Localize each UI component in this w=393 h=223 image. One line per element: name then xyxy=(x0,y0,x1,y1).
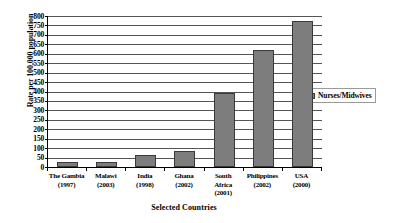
bar[interactable] xyxy=(174,151,195,167)
y-axis-tick-label: 700 xyxy=(18,31,44,38)
bar-slot xyxy=(87,16,126,167)
bar[interactable] xyxy=(253,50,274,167)
x-axis-tick-label-line: (2003) xyxy=(86,181,125,190)
x-axis-tick-label-line: USA xyxy=(282,172,321,181)
bar-series-nurses-midwives xyxy=(48,16,322,167)
x-axis-tick-marks xyxy=(47,167,321,171)
x-axis-tick-mark xyxy=(164,167,165,171)
bar-chart: Rate per 100,000 population 800750700650… xyxy=(0,0,393,223)
y-axis-tick-label: 0 xyxy=(18,164,44,171)
x-axis-tick-label: Philippines(2002) xyxy=(243,172,282,198)
x-axis-tick-label: Malawi(2003) xyxy=(86,172,125,198)
x-axis-tick-mark xyxy=(125,167,126,171)
y-axis-tick-label: 750 xyxy=(18,22,44,29)
x-axis-tick-label-line: South xyxy=(204,172,243,181)
x-axis-tick-label-line: (2001) xyxy=(204,189,243,198)
bar-slot xyxy=(205,16,244,167)
x-axis-tick-label: USA(2000) xyxy=(282,172,321,198)
x-axis-tick-mark xyxy=(282,167,283,171)
legend-label: Nurses/Midwives xyxy=(318,91,372,100)
x-axis-tick-label-line: Malawi xyxy=(86,172,125,181)
bar-slot xyxy=(126,16,165,167)
y-axis-tick-label: 350 xyxy=(18,97,44,104)
x-axis-tick-label: Ghana(2002) xyxy=(164,172,203,198)
x-axis-tick-label-line: The Gambia xyxy=(47,172,86,181)
bar[interactable] xyxy=(96,162,117,167)
x-axis-tick-mark xyxy=(204,167,205,171)
y-axis-tick-label: 50 xyxy=(18,154,44,161)
x-axis-tick-label-line: (2002) xyxy=(243,181,282,190)
x-axis-tick-label-line: Ghana xyxy=(164,172,203,181)
bar[interactable] xyxy=(57,162,78,167)
y-axis-tick-label: 600 xyxy=(18,50,44,57)
y-axis-tick-label: 100 xyxy=(18,145,44,152)
y-axis-tick-label: 150 xyxy=(18,135,44,142)
bar-slot xyxy=(165,16,204,167)
x-axis-tick-label-line: (2000) xyxy=(282,181,321,190)
bar-slot xyxy=(244,16,283,167)
x-axis-tick-label-line: Philippines xyxy=(243,172,282,181)
y-axis-tick-label: 650 xyxy=(18,41,44,48)
bar[interactable] xyxy=(292,21,313,167)
x-axis-tick-label: SouthAfrica(2001) xyxy=(204,172,243,198)
y-axis-tick-label: 250 xyxy=(18,116,44,123)
x-axis-tick-label-line: Africa xyxy=(204,181,243,190)
y-axis-tick-label: 450 xyxy=(18,79,44,86)
y-axis-tick-label: 300 xyxy=(18,107,44,114)
bar[interactable] xyxy=(214,93,235,167)
x-axis-tick-mark xyxy=(47,167,48,171)
x-axis-tick-label: The Gambia(1997) xyxy=(47,172,86,198)
x-axis-tick-mark xyxy=(243,167,244,171)
x-axis-tick-mark xyxy=(86,167,87,171)
bar[interactable] xyxy=(135,155,156,167)
x-axis-title: Selected Countries xyxy=(47,203,321,212)
y-axis-tick-label: 400 xyxy=(18,88,44,95)
x-axis-tick-labels: The Gambia(1997)Malawi(2003)India(1998)G… xyxy=(47,172,321,198)
y-axis-tick-label: 500 xyxy=(18,69,44,76)
x-axis-tick-mark xyxy=(321,167,322,171)
chart-legend: Nurses/Midwives xyxy=(306,88,376,103)
x-axis-tick-label-line: India xyxy=(125,172,164,181)
plot-area xyxy=(47,16,322,168)
x-axis-tick-label: India(1998) xyxy=(125,172,164,198)
x-axis-tick-label-line: (1998) xyxy=(125,181,164,190)
x-axis-tick-label-line: (2002) xyxy=(164,181,203,190)
y-axis-tick-label: 550 xyxy=(18,60,44,67)
bar-slot xyxy=(48,16,87,167)
y-axis-tick-label: 800 xyxy=(18,13,44,20)
y-axis-tick-label: 200 xyxy=(18,126,44,133)
y-axis-tick-labels: 8007507006506005505004504003503002502001… xyxy=(18,16,44,167)
x-axis-tick-label-line: (1997) xyxy=(47,181,86,190)
